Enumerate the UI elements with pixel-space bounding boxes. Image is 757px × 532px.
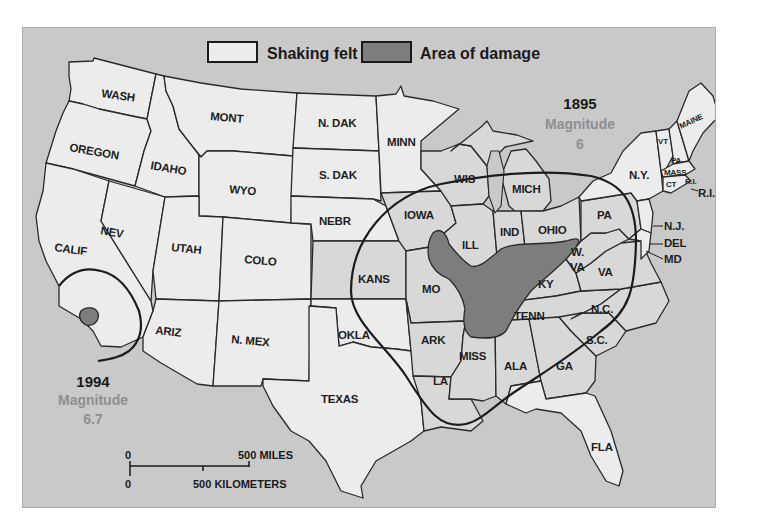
- label-ky: KY: [538, 278, 554, 290]
- label-ala: ALA: [504, 360, 527, 372]
- label-ny: N.Y.: [629, 169, 649, 181]
- label-texas: TEXAS: [321, 393, 359, 405]
- quake-1994-magnitude-value: 6.7: [83, 411, 103, 427]
- state-ariz: [143, 299, 219, 386]
- label-ndak: N. DAK: [318, 117, 357, 129]
- label-ri-small: R.I.: [685, 177, 697, 186]
- label-la: LA: [433, 375, 448, 387]
- label-fla: FLA: [591, 441, 613, 453]
- label-ind: IND: [500, 226, 519, 238]
- label-wva-1: W.: [571, 246, 584, 258]
- scale-top-zero: 0: [125, 449, 131, 461]
- label-minn: MINN: [387, 136, 416, 148]
- scale-bottom-zero: 0: [125, 478, 131, 490]
- label-miss: MISS: [459, 350, 487, 362]
- legend-swatch-area-of-damage: [362, 42, 411, 62]
- state-fla: [506, 381, 623, 486]
- label-ark: ARK: [421, 334, 446, 346]
- quake-1895-magnitude-label: Magnitude: [545, 116, 615, 132]
- quake-1994-year: 1994: [76, 373, 110, 390]
- lake-michigan: [487, 151, 504, 213]
- label-ga: GA: [556, 360, 573, 372]
- quake-1895-year: 1895: [563, 95, 596, 112]
- label-mo: MO: [422, 283, 440, 295]
- label-ohio: OHIO: [538, 224, 567, 236]
- label-ct: CT: [666, 180, 677, 189]
- scale-km-label: 500 KILOMETERS: [193, 478, 287, 490]
- damage-area-1994: [80, 308, 99, 326]
- label-va: VA: [598, 266, 613, 278]
- label-mass: MASS: [664, 168, 687, 177]
- scale-bar: 0 500 MILES 0 500 KILOMETERS: [125, 449, 293, 490]
- label-sdak: S. DAK: [319, 169, 358, 181]
- label-ri: R.I.: [698, 187, 715, 199]
- label-nj: N.J.: [664, 220, 684, 232]
- scale-miles-label: 500 MILES: [238, 449, 293, 461]
- state-mich: [501, 149, 551, 212]
- label-pa: PA: [597, 209, 612, 221]
- legend-label-shaking-felt: Shaking felt: [267, 45, 358, 62]
- earthquake-map: Shaking felt Area of damage 1895 Magnitu…: [22, 27, 716, 508]
- label-kans: KANS: [358, 273, 390, 285]
- label-del: DEL: [664, 237, 687, 249]
- label-nh: PA: [671, 156, 682, 165]
- label-md: MD: [664, 253, 682, 265]
- label-wyo: WYO: [229, 183, 257, 197]
- quake-1895-magnitude-value: 6: [576, 136, 584, 152]
- label-ill: ILL: [462, 239, 479, 251]
- label-wis: WIS: [454, 173, 476, 185]
- us-map-svg: Shaking felt Area of damage 1895 Magnitu…: [23, 28, 716, 508]
- label-nebr: NEBR: [319, 215, 352, 227]
- label-mich: MICH: [512, 183, 541, 195]
- label-iowa: IOWA: [404, 209, 434, 221]
- label-wva-2: VA: [570, 261, 585, 273]
- label-okla: OKLA: [338, 329, 370, 341]
- label-sc: S.C.: [586, 334, 608, 346]
- label-vt: VT: [658, 137, 668, 146]
- legend-swatch-shaking-felt: [208, 42, 257, 62]
- legend-label-area-of-damage: Area of damage: [420, 45, 540, 62]
- label-tenn: TENN: [514, 310, 545, 322]
- quake-1994-magnitude-label: Magnitude: [58, 392, 128, 408]
- label-nc: N.C.: [591, 303, 613, 315]
